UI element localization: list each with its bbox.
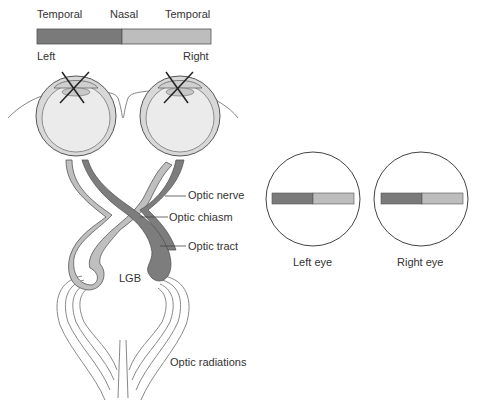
visual-field-bar bbox=[37, 29, 211, 44]
label-optic-tract: Optic tract bbox=[188, 240, 238, 252]
label-optic-nerve: Optic nerve bbox=[188, 189, 244, 201]
left-optic-radiations bbox=[57, 276, 120, 400]
left-eye bbox=[36, 72, 116, 156]
label-optic-radiations: Optic radiations bbox=[170, 356, 246, 368]
label-optic-chiasm: Optic chiasm bbox=[169, 211, 233, 223]
label-left-eye: Left eye bbox=[293, 256, 332, 268]
right-eye bbox=[140, 72, 220, 156]
label-lgb: LGB bbox=[119, 272, 141, 284]
right-optic-radiations bbox=[126, 276, 189, 400]
label-right-eye: Right eye bbox=[397, 256, 443, 268]
left-eye-field bbox=[266, 152, 360, 246]
right-eye-field bbox=[374, 152, 468, 246]
visual-pathway-diagram bbox=[0, 0, 479, 406]
